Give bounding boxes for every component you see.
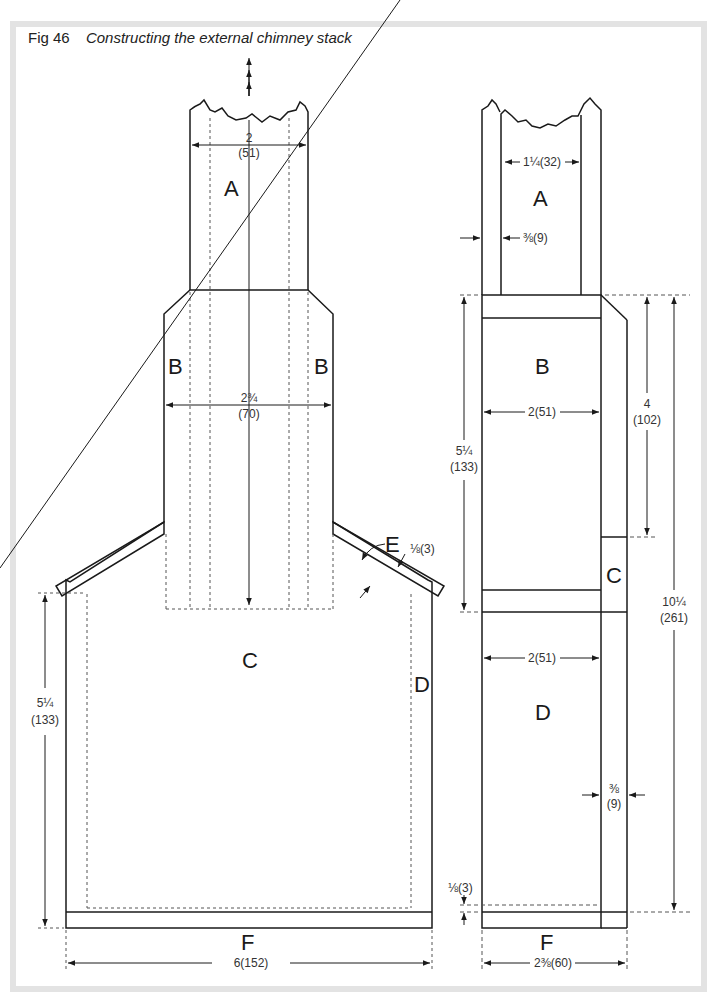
- dim-flue-width-in: 2: [246, 131, 253, 145]
- labels-front: A B B C D E F 2 (51) 2¾ (70) ⅛(3) 5¼ (13…: [31, 131, 435, 970]
- label-a-side: A: [533, 186, 548, 211]
- dim-upper-height-in: 4: [644, 397, 651, 411]
- front-elevation: [56, 58, 444, 928]
- dim-wall-height-mm: (133): [31, 713, 59, 727]
- dim-upper-height-mm: (102): [633, 413, 661, 427]
- dim-stack-width-in: 2¾: [241, 391, 259, 405]
- dim-roof-thickness: ⅛(3): [410, 542, 435, 556]
- hidden-lines-side: [460, 295, 690, 970]
- dim-wall-thickness-top: ⅜(9): [523, 231, 548, 245]
- label-e: E: [385, 532, 400, 557]
- chimney-diagram: A B B C D E F 2 (51) 2¾ (70) ⅛(3) 5¼ (13…: [0, 0, 715, 996]
- dim-wall-height-in: 5¼: [37, 696, 55, 710]
- dimension-lines-front: [0, 0, 430, 963]
- dim-flue-width-mm: (51): [238, 146, 259, 160]
- dim-total-height-mm: (261): [660, 611, 688, 625]
- label-a-front: A: [224, 176, 239, 201]
- dim-total-height-in: 10¼: [662, 595, 686, 609]
- labels-side: A B C D F 1¼(32) ⅜(9) 2(51) 2(51) 5¼ (13…: [448, 155, 688, 970]
- dim-base-width-front: 6(152): [234, 956, 269, 970]
- dim-d-width: 2(51): [528, 651, 556, 665]
- label-f-side: F: [540, 930, 553, 955]
- dim-stack-width-mm: (70): [238, 407, 259, 421]
- dimension-lines-side: [460, 162, 674, 963]
- dim-b-height-in: 5¼: [456, 444, 474, 458]
- label-c-front: C: [242, 648, 258, 673]
- dim-base-width-side: 2⅜(60): [534, 956, 572, 970]
- dim-back-thickness-mm: (9): [607, 797, 622, 811]
- label-b-left: B: [168, 354, 183, 379]
- dim-floor-gap: ⅛(3): [448, 881, 473, 895]
- label-c-side: C: [606, 563, 622, 588]
- dim-b-height-mm: (133): [450, 460, 478, 474]
- hidden-lines-front: [38, 118, 432, 970]
- dim-back-thickness-in: ⅜: [609, 782, 620, 796]
- dim-b-width: 2(51): [528, 405, 556, 419]
- side-section: [482, 98, 627, 928]
- label-f-front: F: [241, 930, 254, 955]
- label-b-right: B: [314, 354, 329, 379]
- label-d-side: D: [535, 700, 551, 725]
- label-d-front: D: [414, 672, 430, 697]
- dim-flue-width-side: 1¼(32): [523, 155, 561, 169]
- label-b-side: B: [535, 354, 550, 379]
